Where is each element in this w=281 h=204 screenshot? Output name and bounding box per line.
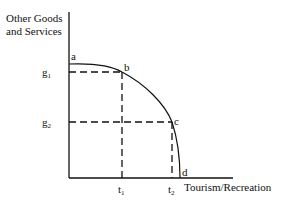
- point-c-label: c: [174, 115, 179, 127]
- g1-label: g1: [42, 66, 52, 80]
- point-b-label: b: [124, 61, 130, 73]
- ppf-diagram: Other Goods and Services a b c d g1 g2 t…: [0, 0, 281, 204]
- t1-label: t1: [118, 183, 125, 197]
- t2-label: t2: [168, 183, 175, 197]
- g2-label: g2: [42, 116, 52, 130]
- point-a-label: a: [71, 50, 76, 62]
- x-axis-label: Tourism/Recreation: [184, 181, 272, 193]
- point-d-label: d: [182, 166, 188, 178]
- y-axis-label-line2: and Services: [6, 25, 62, 37]
- production-possibility-curve: [69, 64, 180, 178]
- y-axis-label-line1: Other Goods: [6, 12, 63, 24]
